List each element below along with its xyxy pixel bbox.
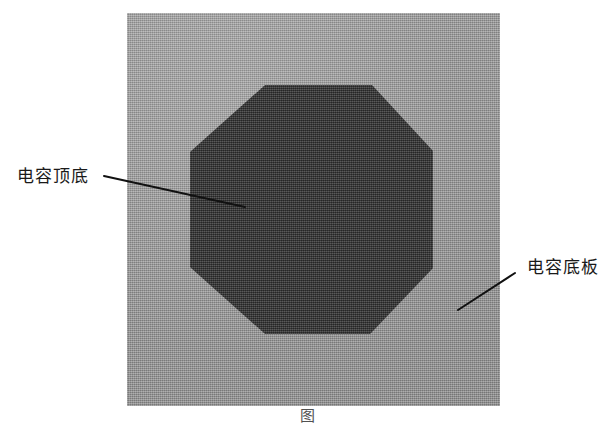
capacitor-octagonal-plate: [190, 85, 433, 334]
annotation-label-top-bottom: 电容顶底: [17, 168, 89, 185]
figure-root: 电容顶底 电容底板 图: [0, 0, 615, 423]
figure-caption: 图: [300, 409, 315, 423]
annotation-label-base-plate: 电容底板: [527, 259, 599, 276]
